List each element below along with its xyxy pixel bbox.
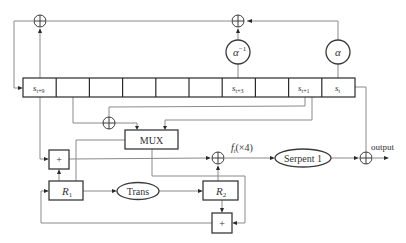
arrow-r2-to-xor: [216, 165, 220, 170]
arrow-into-serpent: [270, 156, 275, 160]
adder-bottom-label: +: [219, 218, 225, 229]
lfsr-register: st+9 st+3 st+1 st: [23, 78, 355, 97]
arrow-into-register: [18, 86, 23, 90]
serpent-label: Serpent 1: [284, 153, 322, 164]
adder-left-label: +: [56, 154, 62, 165]
ft-label: ft(×4): [231, 142, 253, 154]
xor-top-left: [34, 15, 46, 27]
arrow-into-output-xor: [354, 156, 359, 160]
alpha-inv-sup: −1: [239, 45, 247, 53]
xor-top-right: [232, 15, 244, 27]
arrow-into-xor2-right: [247, 19, 252, 23]
register-r2: R2: [203, 181, 238, 200]
alpha-label: α: [335, 46, 341, 58]
arrow-into-r1: [44, 189, 49, 193]
arrow-r1-to-adder: [57, 169, 61, 174]
register-r1: R1: [49, 181, 83, 200]
trans-ellipse: Trans: [117, 183, 159, 200]
alpha-multiplier: α: [326, 40, 350, 64]
cipher-block-diagram: α−1 α st+9 st+3 st+1 st MUX + R1: [0, 0, 406, 243]
arrow-output: [384, 156, 389, 160]
serpent-ellipse: Serpent 1: [275, 149, 331, 167]
arrow-into-middle-xor: [206, 156, 211, 160]
adder-left: +: [49, 150, 69, 169]
alpha-inverse-multiplier: α−1: [226, 40, 250, 64]
mux-box: MUX: [125, 130, 178, 149]
xor-below-register: [103, 117, 115, 129]
arrow-r2-to-bottom-adder: [220, 208, 224, 213]
trans-label: Trans: [127, 186, 150, 197]
output-label: output: [371, 142, 395, 152]
arrow-into-r2: [198, 189, 203, 193]
mux-label: MUX: [140, 135, 164, 146]
arrow-into-bottom-adder-right: [232, 221, 237, 225]
arrow-into-left-adder: [44, 157, 49, 161]
adder-bottom: +: [212, 213, 232, 233]
arrow-into-xor1: [38, 28, 42, 33]
xor-output: [360, 152, 372, 164]
arrow-into-trans: [112, 189, 117, 193]
xor-middle: [212, 152, 224, 164]
arrow-into-xor2-bottom: [236, 28, 240, 33]
